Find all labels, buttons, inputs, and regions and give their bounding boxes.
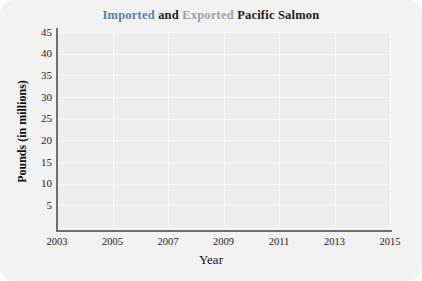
x-axis-tick-labels: 2003200520072009201120132015 [0,236,422,252]
title-segment-subject: Pacific Salmon [234,8,320,22]
gridline-v-2007 [168,32,169,227]
x-tick-label-2015: 2015 [370,236,410,247]
chart-title: Imported and Exported Pacific Salmon [0,8,422,23]
gridline-v-2011 [279,32,280,227]
gridline-v-2015 [390,32,391,227]
gridline-v-2013 [335,32,336,227]
y-tick-label-45: 45 [24,27,52,38]
title-segment-and: and [155,8,182,22]
y-tick-label-35: 35 [24,70,52,81]
x-axis-title: Year [0,252,422,268]
x-tick-label-2005: 2005 [93,236,133,247]
gridline-v-2009 [224,32,225,227]
y-tick-label-5: 5 [24,200,52,211]
gridline-v-2005 [113,32,114,227]
x-tick-label-2007: 2007 [148,236,188,247]
y-tick-label-15: 15 [24,157,52,168]
y-tick-label-25: 25 [24,113,52,124]
x-tick-label-2003: 2003 [37,236,77,247]
y-tick-label-10: 10 [24,178,52,189]
x-tick-label-2011: 2011 [259,236,299,247]
y-tick-label-20: 20 [24,135,52,146]
y-tick-label-40: 40 [24,48,52,59]
plot-area [57,32,390,227]
x-tick-label-2009: 2009 [204,236,244,247]
x-axis-line [56,230,392,232]
x-tick-label-2013: 2013 [315,236,355,247]
y-tick-label-30: 30 [24,92,52,103]
chart-card: Imported and Exported Pacific Salmon Pou… [0,0,422,281]
title-segment-imported: Imported [103,8,155,22]
y-axis-line [56,28,58,231]
title-segment-exported: Exported [182,8,234,22]
